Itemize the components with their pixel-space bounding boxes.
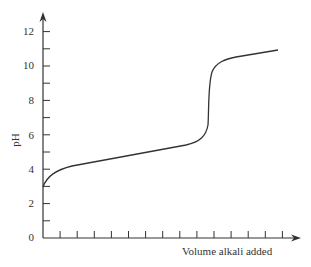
- y-tick-label-10: 10: [20, 59, 34, 71]
- y-tick-label-0: 0: [20, 231, 34, 243]
- y-tick-label-6: 6: [20, 129, 34, 141]
- axes: [40, 12, 302, 242]
- y-axis-title: pH: [9, 133, 21, 146]
- titration-chart: [0, 0, 311, 267]
- x-ticks: [60, 231, 282, 238]
- x-axis-title: Volume alkali added: [182, 245, 272, 257]
- y-tick-label-4: 4: [20, 163, 34, 175]
- y-tick-label-8: 8: [20, 94, 34, 106]
- y-tick-label-2: 2: [20, 197, 34, 209]
- y-ticks: [43, 32, 50, 221]
- y-tick-label-12: 12: [20, 25, 34, 37]
- titration-curve: [43, 50, 278, 187]
